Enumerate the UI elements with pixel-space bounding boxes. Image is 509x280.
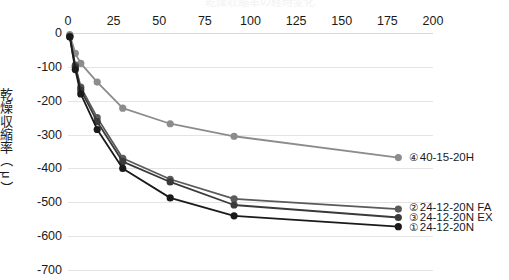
y-tick-label--600: -600 <box>0 229 62 243</box>
x-tick-label-75: 75 <box>198 14 212 28</box>
y-axis-title: 乾燥収縮率（μ） <box>0 88 15 194</box>
x-tick-label-100: 100 <box>240 14 261 28</box>
gridline-y--700 <box>68 270 433 271</box>
data-point <box>230 133 237 140</box>
x-tick-label-25: 25 <box>107 14 121 28</box>
y-tick-label--100: -100 <box>0 60 62 74</box>
series-label-1: ④40-15-20H <box>409 151 474 163</box>
series-line <box>70 36 399 217</box>
data-point <box>167 194 174 201</box>
y-axis-title-char: 収 <box>0 115 15 128</box>
x-tick-label-125: 125 <box>286 14 307 28</box>
series-line <box>70 36 399 209</box>
data-point <box>230 212 237 219</box>
chart-screenshot: 乾燥収縮率の経時変化 0-100-200-300-400-500-600-700… <box>0 0 509 280</box>
data-point <box>72 66 79 73</box>
data-point <box>66 33 73 40</box>
data-point <box>167 178 174 185</box>
data-point <box>77 90 84 97</box>
data-point <box>395 214 402 221</box>
data-point <box>94 78 101 85</box>
y-tick-label--500: -500 <box>0 195 62 209</box>
series-1 <box>66 31 402 161</box>
series-3 <box>66 33 402 221</box>
series-marker-numeral: ① <box>409 222 418 233</box>
x-tick-label-175: 175 <box>377 14 398 28</box>
data-point <box>119 105 126 112</box>
y-axis-title-char: 縮 <box>0 128 15 141</box>
y-axis-title-char: 乾 <box>0 88 15 101</box>
data-point <box>94 126 101 133</box>
series-label-4: ①24-12-20N <box>409 221 474 233</box>
series-marker-numeral: ④ <box>409 152 418 163</box>
y-tick-label--700: -700 <box>0 263 62 277</box>
y-axis-title-char: ） <box>0 178 13 196</box>
data-point <box>395 154 402 161</box>
x-tick-label-50: 50 <box>152 14 166 28</box>
x-tick-label-150: 150 <box>331 14 352 28</box>
series-name-text: 24-12-20N <box>420 221 474 233</box>
x-tick-label-0: 0 <box>65 14 72 28</box>
series-2 <box>66 33 402 213</box>
data-point <box>167 120 174 127</box>
data-point <box>395 223 402 230</box>
data-point <box>230 201 237 208</box>
plot-area <box>68 33 433 270</box>
y-axis-title-char: 燥 <box>0 101 15 114</box>
series-lines-and-markers <box>68 33 433 270</box>
data-point <box>119 165 126 172</box>
data-point <box>395 205 402 212</box>
x-axis-tick-labels: 0255075100125150175200 <box>0 0 509 30</box>
x-tick-label-200: 200 <box>423 14 444 28</box>
series-name-text: 40-15-20H <box>420 151 474 163</box>
